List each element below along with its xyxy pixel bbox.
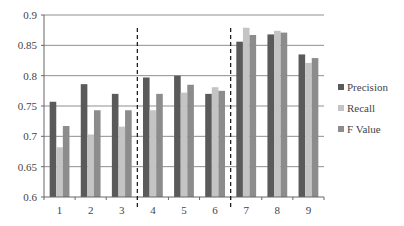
y-axis: 0.60.650.70.750.80.850.9 <box>18 9 44 203</box>
y-tick-label: 0.75 <box>18 100 38 112</box>
legend-item: Recall <box>338 97 388 118</box>
legend-label: Precision <box>347 81 388 93</box>
x-tick-label: 1 <box>57 204 63 216</box>
bar-precision <box>299 54 306 197</box>
y-tick-label: 0.65 <box>18 161 38 173</box>
y-tick-label: 0.8 <box>23 70 37 82</box>
bar-f-value <box>281 33 288 197</box>
x-tick-label: 3 <box>119 204 125 216</box>
x-tick-label: 4 <box>150 204 156 216</box>
bar-f-value <box>187 85 194 197</box>
y-tick-label: 0.9 <box>23 9 37 21</box>
bar-recall <box>87 135 94 197</box>
bar-precision <box>205 94 212 197</box>
bar-recall <box>150 110 157 197</box>
legend-item: F Value <box>338 118 388 139</box>
x-tick-label: 5 <box>181 204 187 216</box>
bar-recall <box>305 63 312 197</box>
bar-recall <box>274 31 281 197</box>
bar-f-value <box>218 91 225 197</box>
bar-f-value <box>94 110 101 197</box>
x-tick-label: 6 <box>212 204 218 216</box>
legend-swatch-icon <box>338 105 344 111</box>
bar-recall <box>181 93 188 197</box>
legend-item: Precision <box>338 76 388 97</box>
x-tick-label: 8 <box>275 204 281 216</box>
legend: PrecisionRecallF Value <box>338 76 388 139</box>
bar-precision <box>112 94 119 197</box>
y-tick-label: 0.6 <box>23 191 37 203</box>
x-axis: 123456789 <box>44 197 324 216</box>
legend-label: Recall <box>347 102 375 114</box>
bar-precision <box>174 76 181 197</box>
x-tick-label: 7 <box>243 204 249 216</box>
bar-f-value <box>250 35 257 197</box>
y-tick-label: 0.85 <box>18 39 38 51</box>
bar-precision <box>267 34 274 197</box>
x-tick-label: 2 <box>88 204 94 216</box>
bar-precision <box>81 84 88 197</box>
legend-label: F Value <box>347 123 381 135</box>
bar-f-value <box>156 94 163 197</box>
bar-precision <box>50 102 57 197</box>
x-tick-label: 9 <box>306 204 312 216</box>
bars <box>50 28 319 197</box>
bar-f-value <box>312 58 319 197</box>
legend-swatch-icon <box>338 84 344 90</box>
bar-recall <box>212 87 219 197</box>
bar-recall <box>243 28 250 197</box>
bar-recall <box>118 127 125 197</box>
y-tick-label: 0.7 <box>23 130 37 142</box>
bar-f-value <box>63 126 70 197</box>
bar-precision <box>143 77 150 197</box>
legend-swatch-icon <box>338 126 344 132</box>
bar-recall <box>56 147 63 197</box>
bar-f-value <box>125 110 132 197</box>
bar-precision <box>236 42 243 197</box>
